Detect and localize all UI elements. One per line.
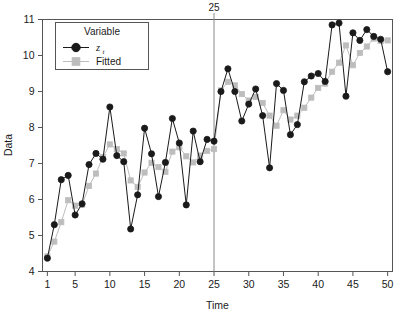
y-tick-label: 6 <box>29 193 35 205</box>
data-point-marker <box>322 78 328 84</box>
data-point-marker <box>329 69 334 74</box>
data-point-marker <box>211 138 217 144</box>
data-point-marker <box>294 122 300 128</box>
data-point-marker <box>232 88 238 94</box>
data-point-marker <box>65 172 71 178</box>
data-point-marker <box>121 159 127 165</box>
data-point-marker <box>204 136 210 142</box>
data-point-marker <box>336 60 341 65</box>
data-point-marker <box>135 184 140 189</box>
y-tick-label: 10 <box>23 49 35 61</box>
data-point-marker <box>308 73 314 79</box>
data-point-marker <box>273 80 279 86</box>
chart-container: 4567891011 15101520253035404550 25 Time … <box>0 0 407 317</box>
data-point-marker <box>155 194 161 200</box>
data-point-marker <box>253 86 259 92</box>
data-point-marker <box>135 192 141 198</box>
x-tick-label: 45 <box>347 278 359 290</box>
data-point-marker <box>141 125 147 131</box>
data-point-marker <box>121 151 126 156</box>
data-point-marker <box>128 178 133 183</box>
data-point-marker <box>51 222 57 228</box>
y-tick-label: 5 <box>29 229 35 241</box>
data-point-marker <box>350 63 355 68</box>
data-point-marker <box>329 22 335 28</box>
data-point-marker <box>100 156 106 162</box>
data-point-marker <box>267 113 272 118</box>
y-tick-label: 11 <box>24 13 35 25</box>
data-point-marker <box>93 171 98 176</box>
data-point-marker <box>274 123 279 128</box>
time-series-chart: 4567891011 15101520253035404550 25 Time … <box>0 0 407 317</box>
data-point-marker <box>315 70 321 76</box>
legend: Variable z t Fitted <box>56 23 149 70</box>
data-point-marker <box>246 101 252 107</box>
data-point-marker <box>170 149 175 154</box>
legend-label-observed: z <box>95 42 100 53</box>
x-tick-label: 40 <box>312 278 324 290</box>
y-tick-label: 7 <box>29 157 35 169</box>
legend-title: Variable <box>84 26 120 37</box>
data-point-marker <box>218 88 224 94</box>
legend-marker-square-icon <box>72 58 80 66</box>
data-point-marker <box>72 212 78 218</box>
data-point-marker <box>371 33 377 39</box>
y-axis-title: Data <box>2 134 14 156</box>
data-point-marker <box>225 66 231 72</box>
data-point-marker <box>287 132 293 138</box>
data-point-marker <box>58 177 64 183</box>
data-point-marker <box>343 93 349 99</box>
data-point-marker <box>350 30 356 36</box>
data-point-marker <box>239 118 245 124</box>
data-point-marker <box>128 226 134 232</box>
data-point-marker <box>148 151 154 157</box>
x-tick-label: 20 <box>173 278 185 290</box>
data-point-marker <box>107 142 112 147</box>
data-point-marker <box>44 255 50 261</box>
data-point-marker <box>357 50 362 55</box>
data-point-marker <box>59 220 64 225</box>
data-point-marker <box>156 165 161 170</box>
data-point-marker <box>211 147 216 152</box>
data-point-marker <box>357 37 363 43</box>
data-point-marker <box>52 239 57 244</box>
y-tick-label: 9 <box>29 85 35 97</box>
data-point-marker <box>142 170 147 175</box>
x-tick-label: 35 <box>278 278 290 290</box>
data-point-marker <box>385 69 391 75</box>
data-point-marker <box>260 100 265 105</box>
data-point-marker <box>266 165 272 171</box>
data-point-marker <box>225 79 230 84</box>
x-tick-label: 5 <box>72 278 78 290</box>
data-point-marker <box>184 154 189 159</box>
data-point-marker <box>260 113 266 119</box>
reference-line-label: 25 <box>208 2 220 13</box>
data-point-marker <box>281 108 286 113</box>
data-point-marker <box>93 150 99 156</box>
y-tick-label: 4 <box>29 265 35 277</box>
x-tick-label: 1 <box>44 278 50 290</box>
x-tick-label: 30 <box>243 278 255 290</box>
data-point-marker <box>280 87 286 93</box>
data-point-marker <box>364 44 369 49</box>
x-tick-label: 50 <box>382 278 394 290</box>
data-point-marker <box>336 20 342 26</box>
data-point-marker <box>239 91 244 96</box>
data-point-marker <box>176 140 182 146</box>
data-point-marker <box>197 159 203 165</box>
legend-marker-circle-icon <box>72 43 80 51</box>
data-point-marker <box>191 160 196 165</box>
x-axis-title: Time <box>206 299 229 311</box>
x-tick-label: 15 <box>139 278 151 290</box>
legend-label-fitted: Fitted <box>96 56 121 67</box>
data-point-marker <box>114 147 119 152</box>
data-point-marker <box>66 198 71 203</box>
data-point-marker <box>364 26 370 32</box>
data-point-marker <box>343 43 348 48</box>
data-point-marker <box>385 38 390 43</box>
data-point-marker <box>302 105 307 110</box>
data-point-marker <box>378 36 384 42</box>
data-point-marker <box>86 183 91 188</box>
data-point-marker <box>107 104 113 110</box>
data-point-marker <box>86 161 92 167</box>
